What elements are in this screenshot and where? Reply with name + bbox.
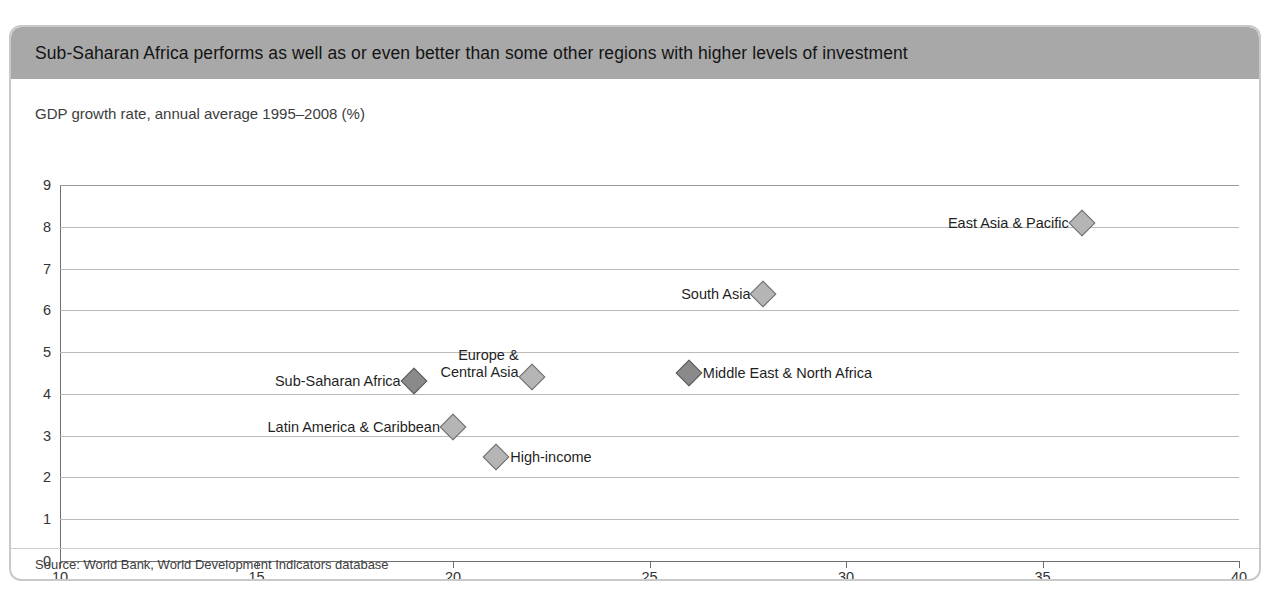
- y-tick-label: 3: [17, 428, 51, 444]
- data-point-label: High-income: [510, 448, 591, 465]
- y-axis-ticks: 0123456789: [11, 185, 51, 562]
- x-tick-mark: [1043, 561, 1044, 568]
- figure-title: Sub-Saharan Africa performs as well as o…: [35, 43, 908, 64]
- x-tick-mark: [650, 561, 651, 568]
- data-point-marker[interactable]: [1068, 209, 1095, 236]
- x-tick-mark: [846, 561, 847, 568]
- source-note: Source: World Bank, World Development In…: [35, 557, 389, 572]
- y-tick-label: 7: [17, 261, 51, 277]
- data-point-marker[interactable]: [750, 280, 777, 307]
- y-tick-label: 9: [17, 177, 51, 193]
- x-tick-label: 30: [838, 569, 854, 581]
- y-tick-label: 8: [17, 219, 51, 235]
- y-tick-label: 5: [17, 344, 51, 360]
- x-tick-label: 40: [1231, 569, 1247, 581]
- x-tick-label: 25: [641, 569, 657, 581]
- y-tick-label: 1: [17, 511, 51, 527]
- y-axis-label: GDP growth rate, annual average 1995–200…: [35, 105, 365, 122]
- x-tick-label: 20: [445, 569, 461, 581]
- data-point-marker[interactable]: [400, 368, 427, 395]
- y-tick-label: 6: [17, 302, 51, 318]
- data-point-marker[interactable]: [518, 364, 545, 391]
- data-point-label: South Asia: [681, 285, 750, 302]
- data-point-label-line: Central Asia: [440, 364, 518, 381]
- data-point-label: Europe &Central Asia: [440, 347, 518, 381]
- y-tick-label: 2: [17, 469, 51, 485]
- gridline: [60, 519, 1239, 520]
- gridline: [60, 269, 1239, 270]
- data-point-label: East Asia & Pacific: [948, 214, 1069, 231]
- x-tick-label: 35: [1034, 569, 1050, 581]
- gridline: [60, 185, 1239, 186]
- data-point-label: Sub-Saharan Africa: [275, 373, 401, 390]
- gridline: [60, 477, 1239, 478]
- figure-container: Sub-Saharan Africa performs as well as o…: [9, 25, 1261, 581]
- source-divider: [11, 548, 1259, 549]
- data-point-marker[interactable]: [483, 443, 510, 470]
- data-point-marker[interactable]: [675, 360, 702, 387]
- data-point-label: Middle East & North Africa: [703, 365, 872, 382]
- x-tick-mark: [1239, 561, 1240, 568]
- gridline: [60, 310, 1239, 311]
- chart-area: GDP growth rate, annual average 1995–200…: [11, 79, 1259, 581]
- data-point-marker[interactable]: [440, 414, 467, 441]
- gridline: [60, 394, 1239, 395]
- plot-region: East Asia & PacificSouth AsiaEurope &Cen…: [60, 185, 1239, 561]
- gridline: [60, 436, 1239, 437]
- figure-title-band: Sub-Saharan Africa performs as well as o…: [11, 27, 1259, 79]
- data-point-label-line: Europe &: [440, 347, 518, 364]
- data-point-label: Latin America & Caribbean: [268, 419, 441, 436]
- gridline: [60, 352, 1239, 353]
- y-tick-label: 4: [17, 386, 51, 402]
- x-tick-mark: [453, 561, 454, 568]
